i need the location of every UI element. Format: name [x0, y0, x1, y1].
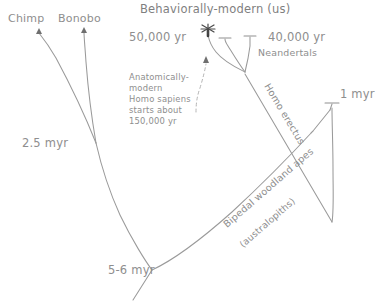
arrow-icon-bonobo — [81, 27, 87, 33]
tip-label-neandertals: Neandertals — [258, 47, 317, 58]
phylogenetic-tree-diagram: Behaviorally-modern (us) Chimp Bonobo 50… — [0, 0, 377, 301]
annotation-line-3: Homo sapiens — [129, 94, 191, 104]
tip-label-chimp: Chimp — [8, 12, 44, 25]
branch-pan-ancestor — [96, 143, 152, 270]
annotation-text-block: Anatomically- modern Homo sapiens starts… — [129, 72, 191, 126]
branch-bonobo — [84, 32, 96, 143]
branch-modern-humans — [208, 35, 245, 72]
arrow-icon-chimp — [36, 28, 42, 34]
figure-title: Behaviorally-modern (us) — [140, 2, 290, 16]
branch-neandertal-b — [245, 37, 250, 72]
date-label-1myr: 1 myr — [340, 87, 375, 101]
date-label-50000yr: 50,000 yr — [129, 30, 186, 44]
date-label-40000yr: 40,000 yr — [268, 30, 325, 44]
annotation-line-4: starts about — [129, 105, 183, 115]
tip-label-bonobo: Bonobo — [58, 12, 101, 25]
arrow-icon-annotation — [203, 56, 209, 63]
branch-chimp — [39, 33, 96, 143]
branch-right-arm — [332, 108, 333, 222]
starburst-icon — [201, 24, 215, 34]
date-label-2point5myr: 2.5 myr — [22, 136, 68, 150]
annotation-line-5: 150,000 yr — [129, 116, 177, 126]
date-label-5to6myr: 5-6 myr — [108, 263, 155, 277]
annotation-connector — [196, 64, 206, 112]
annotation-line-2: modern — [129, 83, 163, 93]
annotation-line-1: Anatomically- — [129, 72, 189, 82]
branch-erectus-diagonal — [311, 131, 313, 133]
